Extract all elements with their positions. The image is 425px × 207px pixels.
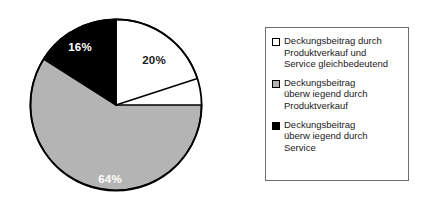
chart-legend: Deckungsbeitrag durch Produktverkauf und… (265, 27, 409, 181)
legend-item-label: Deckungsbeitrag überw iegend durch Produ… (284, 77, 367, 112)
pie-label-gray-slice: 64% (98, 173, 122, 185)
pie-chart-graphic: 20% 64% 16% (24, 13, 208, 197)
black-swatch-icon (272, 122, 280, 130)
pie-label-black-slice: 16% (68, 41, 92, 53)
legend-item[interactable]: Deckungsbeitrag überw iegend durch Servi… (272, 119, 403, 154)
pie-svg: 20% 64% 16% (24, 13, 208, 197)
legend-item-label: Deckungsbeitrag durch Produktverkauf und… (284, 35, 388, 70)
legend-item-label: Deckungsbeitrag überw iegend durch Servi… (284, 119, 367, 154)
pie-label-white-slice: 20% (142, 54, 166, 66)
white-swatch-icon (272, 38, 280, 46)
legend-item[interactable]: Deckungsbeitrag überw iegend durch Produ… (272, 77, 403, 112)
legend-item[interactable]: Deckungsbeitrag durch Produktverkauf und… (272, 35, 403, 70)
pie-chart-figure: 20% 64% 16% Deckungsbeitrag durch Produk… (0, 0, 425, 207)
gray-swatch-icon (272, 80, 280, 88)
